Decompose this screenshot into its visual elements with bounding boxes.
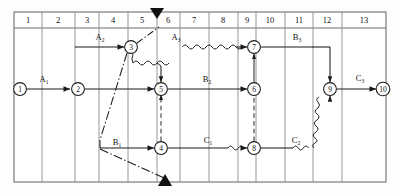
column-header-6: 6 — [166, 15, 170, 25]
node-6-label: 6 — [252, 85, 256, 94]
node-1[interactable]: 1 — [14, 83, 27, 96]
column-header-12: 12 — [323, 15, 332, 25]
network-diagram-canvas: 1 2 3 4 5 6 7 8 9 10 11 12 13 — [0, 0, 399, 196]
node-9[interactable]: 9 — [324, 83, 337, 96]
node-2[interactable]: 2 — [72, 83, 85, 96]
node-6[interactable]: 6 — [248, 83, 261, 96]
node-1-label: 1 — [18, 85, 22, 94]
column-header-9: 9 — [245, 15, 249, 25]
node-9-label: 9 — [328, 85, 332, 94]
node-7[interactable]: 7 — [248, 41, 261, 54]
column-header-8: 8 — [221, 15, 225, 25]
column-header-3: 3 — [85, 15, 89, 25]
node-5-label: 5 — [159, 85, 163, 94]
column-header-10: 10 — [266, 15, 275, 25]
node-8[interactable]: 8 — [248, 142, 261, 155]
column-header-2: 2 — [56, 15, 60, 25]
node-4-label: 4 — [159, 144, 163, 153]
node-10-label: 10 — [379, 85, 387, 94]
node-3[interactable]: 3 — [125, 41, 138, 54]
node-7-label: 7 — [252, 43, 256, 52]
column-header-11: 11 — [295, 15, 303, 25]
node-3-label: 3 — [129, 43, 133, 52]
node-4[interactable]: 4 — [155, 142, 168, 155]
column-header-5: 5 — [140, 15, 144, 25]
node-8-label: 8 — [252, 144, 256, 153]
column-header-7: 7 — [192, 15, 196, 25]
node-5[interactable]: 5 — [155, 83, 168, 96]
node-10[interactable]: 10 — [376, 82, 390, 96]
network-diagram-svg: 1 2 3 4 5 6 7 8 9 10 11 12 13 — [0, 0, 399, 196]
column-header-13: 13 — [360, 15, 369, 25]
column-header-1: 1 — [26, 15, 30, 25]
node-2-label: 2 — [76, 85, 80, 94]
